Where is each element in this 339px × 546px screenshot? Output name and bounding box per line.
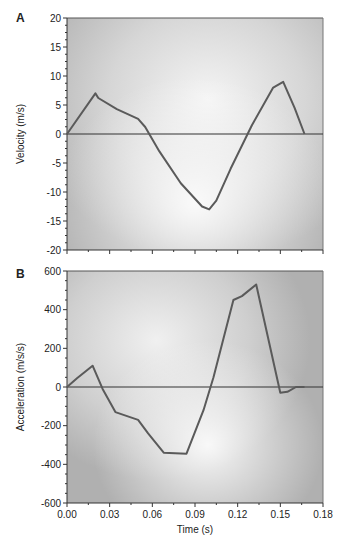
y-tick-label: -5 [52, 158, 61, 169]
figure: A B 20151050-5-10-15-20 Velocity (m/s) 6… [0, 0, 339, 546]
y-tick-label: 10 [50, 71, 62, 82]
y-tick-label: -600 [41, 498, 61, 509]
x-axis-label: Time (s) [177, 524, 213, 535]
y-tick-label: -200 [41, 420, 61, 431]
x-tick-label: 0.15 [271, 509, 291, 520]
panel-label-b: B [16, 267, 25, 281]
y-tick-label: 600 [44, 266, 61, 277]
y-tick-label: 0 [55, 129, 61, 140]
y-tick-label: -15 [47, 216, 62, 227]
y-tick-label: 15 [50, 42, 62, 53]
x-tick-label: 0.12 [228, 509, 248, 520]
y-tick-label: 0 [55, 382, 61, 393]
panel-a-plot: 20151050-5-10-15-20 Velocity (m/s) [15, 13, 323, 256]
y-tick-label: 400 [44, 304, 61, 315]
y-tick-label: 200 [44, 343, 61, 354]
x-tick-label: 0.00 [57, 509, 77, 520]
panel-b-plot: 6004002000-200-400-600 0.000.030.060.090… [15, 266, 333, 521]
panel-label-a: A [16, 11, 25, 25]
y-tick-label: 20 [50, 13, 62, 24]
y-tick-label: -10 [47, 187, 62, 198]
y-axis-label-a: Velocity (m/s) [15, 104, 26, 164]
y-tick-label: -20 [47, 245, 62, 256]
x-tick-label: 0.09 [185, 509, 205, 520]
y-tick-label: 5 [55, 100, 61, 111]
x-tick-label: 0.06 [143, 509, 163, 520]
x-tick-label: 0.03 [100, 509, 120, 520]
x-tick-label: 0.18 [313, 509, 333, 520]
y-axis-label-b: Acceleration (m/s/s) [15, 343, 26, 431]
y-tick-label: -400 [41, 459, 61, 470]
